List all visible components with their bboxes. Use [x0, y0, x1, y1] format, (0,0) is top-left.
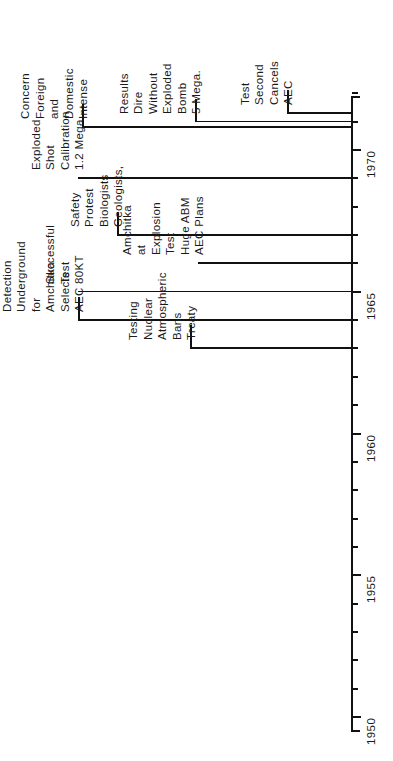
timeline-event-label-line: 1.2 Mega. [73, 116, 85, 170]
timeline-leader-horizontal [195, 121, 352, 123]
timeline-event-label-line: Bomb [176, 82, 188, 113]
timeline-leader-horizontal [82, 126, 352, 128]
timeline-event-label-line: Test [239, 83, 251, 106]
timeline-leader-line [82, 126, 352, 128]
timeline-event-label-line: AEC [282, 80, 294, 105]
timeline-tick-minor [352, 659, 358, 661]
timeline-event-label-line: 80KT [73, 255, 85, 284]
timeline-leader-horizontal [78, 319, 352, 321]
timeline-event-label-line: Protest [83, 188, 95, 227]
timeline-leader-line [195, 121, 352, 123]
timeline-leader-line [78, 291, 352, 293]
timeline-tick-major [352, 149, 361, 151]
timeline-tick-minor [352, 92, 358, 94]
timeline-event-label-line: Domestic [63, 69, 75, 120]
timeline-axis-cap-top [351, 96, 360, 98]
timeline-tick-major [352, 716, 361, 718]
timeline-event-label-line: Underground [15, 241, 27, 312]
timeline-year-label: 1970 [365, 151, 377, 178]
timeline-event-label-line: Intense [77, 79, 89, 119]
timeline-tick-major [352, 433, 361, 435]
timeline-leader-line [78, 319, 352, 321]
timeline-tick-minor [352, 121, 358, 123]
timeline-year-label: 1965 [365, 293, 377, 320]
timeline-tick-minor [352, 319, 358, 321]
timeline-tick-major [352, 574, 361, 576]
timeline-leader-line [198, 262, 352, 264]
timeline-year-label: 1960 [365, 434, 377, 461]
timeline-event-label-line: 5 Mega. [190, 70, 202, 114]
timeline-event-label-line: at [135, 245, 147, 255]
timeline-event-label-line: Test [59, 261, 71, 284]
timeline-event-label-line: Second [253, 64, 265, 105]
timeline-tick-minor [352, 347, 358, 349]
timeline-event-label-line: Successful [44, 225, 56, 284]
timeline-figure: 19501955196019651970 TreatyBansAtmospher… [0, 0, 393, 761]
timeline-tick-major [352, 291, 361, 293]
timeline-event-label-line: Results [118, 73, 130, 114]
timeline-tick-minor [352, 631, 358, 633]
timeline-event-label-line: Explosion [150, 202, 162, 255]
timeline-event-label-line: Bans [171, 313, 183, 341]
timeline-event-label-line: and [48, 99, 60, 119]
timeline-leader-line [190, 347, 352, 349]
timeline-event-label-line: Testing [127, 302, 139, 341]
timeline-tick-minor [352, 177, 358, 179]
timeline-tick-minor [352, 461, 358, 463]
timeline-event-label-line: Biologists [98, 174, 110, 227]
timeline-tick-minor [352, 234, 358, 236]
timeline-tick-minor [352, 489, 358, 491]
timeline-tick-minor [352, 262, 358, 264]
timeline-event-label-line: Exploded [161, 63, 173, 114]
timeline-event-label-line: Exploded [30, 120, 42, 171]
timeline-leader-horizontal [78, 291, 352, 293]
timeline-tick-minor [352, 603, 358, 605]
timeline-event-label-line: Treaty [185, 306, 197, 340]
timeline-leader-horizontal [287, 112, 352, 114]
timeline-event-label-line: Nuclear [142, 298, 154, 340]
timeline-tick-minor [352, 376, 358, 378]
timeline-leader-horizontal [190, 347, 352, 349]
timeline-leader-line [287, 112, 352, 114]
timeline-event-label-line: Atmospheric [156, 273, 168, 341]
timeline-event-label-line: Detection [1, 260, 13, 312]
timeline-event-label-line: Shot [44, 145, 56, 170]
timeline-event-label-line: Foreign [34, 78, 46, 119]
timeline-event-label-line: AEC [73, 287, 85, 312]
timeline-event-label-line: Test [164, 233, 176, 256]
timeline-event-label-line: Huge ABM [179, 198, 191, 256]
timeline-tick-minor [352, 404, 358, 406]
timeline-event-label-line: Calibration [59, 112, 71, 171]
timeline-event-label-line: Safety [69, 192, 81, 227]
timeline-event-label-line: Without [147, 72, 159, 113]
timeline-event-label-line: Concern [19, 73, 31, 119]
timeline-tick-minor [352, 518, 358, 520]
timeline-leader-horizontal [198, 262, 352, 264]
timeline-tick-minor [352, 546, 358, 548]
timeline-tick-minor [352, 688, 358, 690]
timeline-axis-cap-bottom [351, 730, 360, 732]
timeline-event-label-line: AEC Plans [193, 197, 205, 256]
timeline-event-label-line: Cancels [268, 61, 280, 105]
timeline-event-label-line: Geologists, [112, 166, 124, 227]
timeline-tick-minor [352, 206, 358, 208]
timeline-year-label: 1950 [365, 718, 377, 745]
timeline-year-label: 1955 [365, 576, 377, 603]
timeline-axis-spine [351, 96, 353, 732]
timeline-event-label-line: Dire [132, 91, 144, 114]
timeline-event-label-line: for [30, 298, 42, 312]
